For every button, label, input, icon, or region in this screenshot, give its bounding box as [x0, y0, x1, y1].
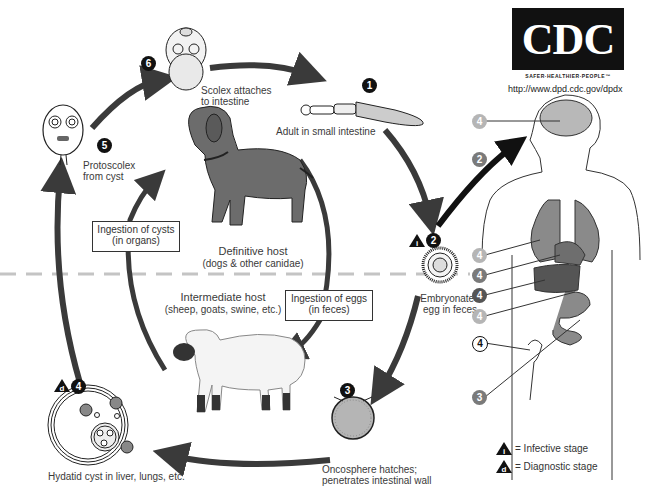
legend-diagnostic-label: = Diagnostic stage: [515, 461, 598, 472]
svg-text:i: i: [416, 239, 418, 248]
definitive-host-subtitle: (dogs & other canidae): [188, 258, 318, 269]
arrow-3-to-4: [170, 455, 330, 464]
definitive-host-label: Definitive host (dogs & other canidae): [188, 245, 318, 269]
stage-5-label-line2: from cyst: [83, 171, 135, 182]
egg-illustration: [423, 248, 457, 282]
legend-diagnostic: = Diagnostic stage: [515, 461, 598, 472]
sheep-illustration: [173, 330, 305, 412]
cdc-tagline: SAFER·HEALTHIER·PEOPLE™: [505, 73, 631, 79]
svg-text:d: d: [502, 465, 507, 474]
arrow-2-to-3: [380, 296, 418, 390]
stage-4-marker: 4: [71, 379, 86, 394]
arrow-6-to-1: [210, 65, 310, 75]
stage-3-marker: 3: [340, 383, 355, 398]
protoscolex-illustration: [43, 105, 83, 165]
stage-2-marker: 2: [426, 233, 441, 248]
arrow-5-to-6: [92, 80, 160, 128]
hydatid-cyst-illustration: [48, 385, 133, 465]
human-marker-heart: 4: [472, 268, 487, 283]
intermediate-host-subtitle: (sheep, goats, swine, etc.): [158, 304, 288, 315]
stage-3-label: Oncosphere hatches; penetrates intestina…: [322, 464, 432, 486]
stage-6-label-line1: Scolex attaches: [201, 85, 272, 96]
ingestion-cysts-line2: (in organs): [97, 235, 175, 246]
ingestion-eggs-line1: Ingestion of eggs: [290, 293, 368, 304]
intermediate-host-title: Intermediate host: [158, 291, 288, 304]
stage-6-label: Scolex attaches to intestine: [201, 85, 272, 107]
ingestion-eggs-box: Ingestion of eggs (in feces): [285, 290, 373, 321]
stage-3-label-line2: penetrates intestinal wall: [322, 475, 432, 486]
human-marker-ingestion: 2: [472, 152, 487, 167]
scolex-illustration: [166, 28, 206, 90]
ingestion-cysts-box: Ingestion of cysts (in organs): [92, 221, 180, 252]
cdc-logo-text: CDC: [512, 14, 624, 65]
arrow-4-to-5: [58, 175, 81, 383]
dog-illustration: [189, 106, 313, 225]
svg-text:i: i: [503, 447, 505, 456]
legend-infective: = Infective stage: [515, 443, 588, 454]
stage-6-label-line2: to intestine: [201, 96, 272, 107]
ingestion-cysts-line1: Ingestion of cysts: [97, 224, 175, 235]
source-url[interactable]: http://www.dpd.cdc.gov/dpdx: [508, 84, 623, 94]
adult-worm-illustration: [301, 102, 423, 126]
oncosphere-illustration: [332, 397, 374, 439]
human-marker-liver: 4: [472, 288, 487, 303]
stage-5-label-line1: Protoscolex: [83, 160, 135, 171]
arrow-1-to-2: [385, 130, 430, 218]
stage-4-label: Hydatid cyst in liver, lungs, etc.: [48, 471, 185, 482]
human-marker-bone: 4: [472, 336, 488, 352]
human-marker-brain: 4: [472, 114, 487, 129]
stage-3-label-line1: Oncosphere hatches;: [322, 464, 432, 475]
svg-text:d: d: [60, 384, 65, 393]
human-marker-lung: 4: [472, 248, 487, 263]
stage-6-marker: 6: [141, 56, 156, 71]
stage-1-label: Adult in small intestine: [276, 126, 376, 137]
legend-infective-label: = Infective stage: [515, 443, 588, 454]
stage-1-marker: 1: [362, 78, 377, 93]
stage-5-marker: 5: [97, 138, 112, 153]
human-marker-penetration: 3: [472, 390, 487, 405]
stage-5-label: Protoscolex from cyst: [83, 160, 135, 182]
intermediate-host-label: Intermediate host (sheep, goats, swine, …: [158, 291, 288, 315]
human-marker-intestine: 4: [472, 309, 487, 324]
cdc-logo: CDC: [512, 8, 624, 70]
ingestion-eggs-line2: (in feces): [290, 304, 368, 315]
definitive-host-title: Definitive host: [188, 245, 318, 258]
